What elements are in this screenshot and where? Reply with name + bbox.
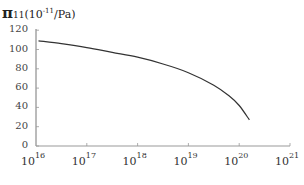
cropped-caption <box>0 177 304 185</box>
data-line <box>39 41 250 120</box>
plot-area <box>0 0 304 185</box>
